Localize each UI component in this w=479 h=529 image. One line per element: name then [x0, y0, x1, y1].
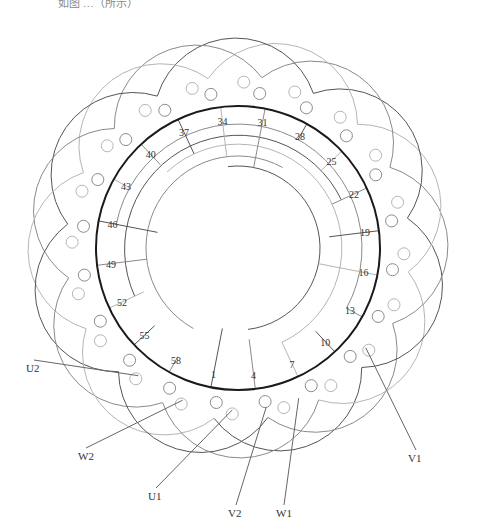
phase-connection-arc	[146, 156, 283, 329]
radial-lead	[97, 259, 147, 265]
coil-end-circle	[254, 88, 266, 100]
coil-end-circle	[370, 149, 382, 161]
coil-end-circle	[139, 104, 151, 116]
coil-end-circle	[392, 196, 404, 208]
coil-end-circle	[94, 335, 106, 347]
coil-end-circle	[164, 382, 176, 394]
terminal-label-w1: W1	[276, 507, 292, 519]
slot-label: 19	[360, 227, 370, 238]
terminal-label-u1: U1	[148, 490, 161, 502]
coil-end-circle	[259, 396, 271, 408]
coil-end-circle	[124, 354, 136, 366]
radial-lead	[329, 231, 379, 237]
coil-end-circle	[66, 236, 78, 248]
slot-label: 4	[251, 370, 256, 381]
coil-end-circle	[76, 185, 88, 197]
coil-end-circle	[186, 82, 198, 94]
coil-end-circle	[210, 397, 222, 409]
phase-connection-arc	[125, 135, 342, 296]
coil-end-circle	[334, 111, 346, 123]
coil-end-circle	[340, 130, 352, 142]
coil-end-circle	[398, 248, 410, 260]
coil-end-circle	[388, 299, 400, 311]
coil-end-circle	[344, 350, 356, 362]
coil-end-circle	[205, 88, 217, 100]
terminal-label-u2: U2	[26, 362, 39, 374]
slot-label: 49	[106, 259, 116, 270]
radial-lead	[249, 339, 255, 389]
end-winding-arc	[362, 218, 443, 367]
terminal-lead	[236, 408, 266, 506]
slot-label: 13	[345, 305, 355, 316]
phase-connection-arc	[167, 144, 342, 342]
coil-end-circle	[372, 310, 384, 322]
coil-end-circle	[94, 315, 106, 327]
slot-label: 55	[139, 330, 149, 341]
terminal-label-v1: V1	[408, 452, 421, 464]
terminal-lead	[366, 348, 416, 450]
slot-label: 34	[217, 116, 227, 127]
slot-label: 31	[257, 117, 267, 128]
radial-lead	[221, 107, 227, 157]
terminal-lead	[156, 410, 232, 488]
coil-end-circle	[72, 288, 84, 300]
coil-end-circle	[101, 140, 113, 152]
coil-end-circle	[300, 102, 312, 114]
terminal-lead	[34, 360, 138, 376]
slot-label: 10	[320, 337, 330, 348]
winding-diagram: 1471013161922252831343740434649525558U1V…	[0, 0, 479, 529]
coil-end-circle	[325, 380, 337, 392]
slot-label: 52	[117, 297, 127, 308]
slot-label: 40	[146, 149, 156, 160]
terminal-lead	[284, 398, 299, 505]
end-winding-arc	[208, 44, 357, 125]
coil-end-circle	[278, 402, 290, 414]
stator-circle	[96, 106, 380, 390]
slot-label: 16	[359, 267, 369, 278]
coil-end-circle	[238, 76, 250, 88]
coil-end-circle	[386, 215, 398, 227]
slot-label: 1	[211, 369, 216, 380]
end-winding-arc	[34, 129, 115, 278]
terminal-label-v2: V2	[228, 507, 241, 519]
coil-end-circle	[78, 269, 90, 281]
coil-end-circle	[159, 104, 171, 116]
coil-end-circle	[78, 220, 90, 232]
coil-end-circle	[175, 398, 187, 410]
end-winding-arc	[54, 278, 163, 407]
coil-end-circle	[120, 134, 132, 146]
slot-label: 58	[171, 355, 181, 366]
coil-end-circle	[92, 174, 104, 186]
slot-label: 7	[290, 359, 295, 370]
coil-end-circle	[289, 86, 301, 98]
slot-label: 43	[121, 181, 131, 192]
slot-label: 37	[179, 127, 189, 138]
slot-label: 22	[349, 189, 359, 200]
phase-connection-arc	[228, 166, 320, 329]
coil-end-circle	[370, 169, 382, 181]
slot-label: 28	[295, 131, 305, 142]
terminal-label-w2: W2	[78, 450, 94, 462]
coil-end-circle	[387, 264, 399, 276]
slot-label: 46	[107, 219, 117, 230]
end-winding-arc	[119, 372, 268, 453]
coil-end-circle	[305, 380, 317, 392]
slot-label: 25	[327, 156, 337, 167]
